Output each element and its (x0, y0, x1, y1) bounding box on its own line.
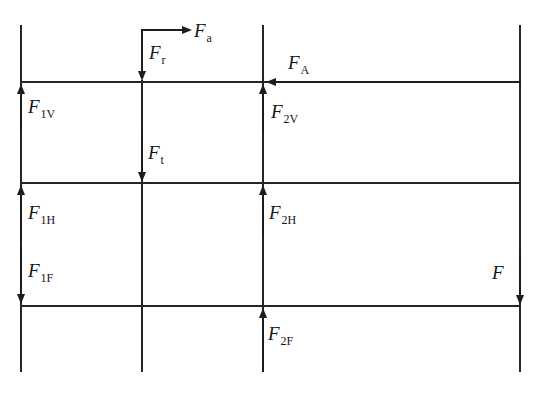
f1h-arrowhead-up-icon (17, 185, 25, 195)
force-label-fA: FA (288, 53, 309, 72)
force-label-f2f: F2F (268, 324, 293, 343)
force-label-ft: Ft (148, 143, 164, 162)
ft-arrowhead-down-icon (138, 172, 146, 182)
f-arrowhead-down-icon (516, 295, 524, 305)
fA-arrowhead-left-icon (266, 78, 276, 86)
force-label-f2h: F2H (269, 203, 296, 222)
force-label-fa: Fa (194, 21, 212, 40)
force-label-f1h: F1H (28, 203, 55, 222)
f1h-arrow-shaft (20, 193, 22, 242)
fr-arrow-shaft (141, 29, 143, 72)
f2f-arrow-shaft (262, 317, 264, 372)
f2h-arrowhead-up-icon (259, 185, 267, 195)
fA-arrow-shaft (274, 81, 521, 83)
force-label-f1f: F1F (28, 261, 53, 280)
f1v-arrowhead-up-icon (17, 84, 25, 94)
f1f-arrow-shaft (20, 247, 22, 295)
horizontal-line-3 (21, 305, 521, 307)
force-label-f: F (492, 263, 505, 282)
fa-arrow-shaft (141, 29, 184, 31)
f2v-arrowhead-up-icon (259, 84, 267, 94)
vertical-line-2 (141, 80, 143, 372)
f-arrow-shaft (519, 250, 521, 296)
fa-arrowhead-right-icon (182, 26, 192, 34)
force-label-f1v: F1V (28, 97, 55, 116)
horizontal-line-2 (21, 182, 521, 184)
f2v-arrow-shaft (262, 92, 264, 133)
f2h-arrow-shaft (262, 193, 264, 238)
force-diagram: Fa Fr FA F1V F2V Ft F1H F2H F1F F2F F (0, 0, 533, 396)
force-label-f2v: F2V (271, 102, 298, 121)
ft-arrow-shaft (141, 130, 143, 173)
fr-arrowhead-down-icon (138, 71, 146, 81)
f1f-arrowhead-down-icon (17, 294, 25, 304)
f1v-arrow-shaft (20, 92, 22, 133)
force-label-fr: Fr (149, 43, 166, 62)
vertical-line-4 (519, 25, 521, 372)
f2f-arrowhead-up-icon (259, 308, 267, 318)
